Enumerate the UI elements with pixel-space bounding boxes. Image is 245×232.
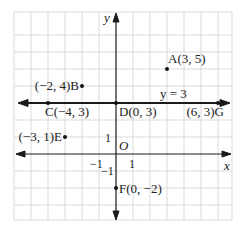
label-point-e: (−3, 1)E bbox=[19, 129, 62, 144]
label-point-f: F(0, −2) bbox=[119, 181, 162, 196]
x-axis-left-arrow-icon bbox=[16, 151, 25, 157]
tick-y-1: 1 bbox=[105, 131, 111, 145]
label-point-d: D(0, 3) bbox=[119, 104, 157, 119]
line-equation-label: y = 3 bbox=[160, 86, 187, 101]
tick-y-neg-1: −1 bbox=[101, 164, 114, 178]
y-axis-label: y bbox=[102, 10, 110, 25]
point-b bbox=[80, 84, 84, 88]
origin-label: O bbox=[119, 138, 129, 153]
y-axis-down-arrow-icon bbox=[113, 211, 119, 220]
label-point-g: (6, 3)G bbox=[186, 104, 224, 119]
x-axis-label: x bbox=[223, 158, 230, 173]
label-point-b: (−2, 4)B bbox=[35, 78, 79, 93]
tick-x-1: 1 bbox=[129, 157, 135, 171]
y-axis-up-arrow-icon bbox=[113, 13, 119, 22]
label-point-a: A(3, 5) bbox=[168, 51, 206, 66]
label-point-c: C(−4, 3) bbox=[45, 104, 89, 119]
x-axis-right-arrow-icon bbox=[222, 151, 231, 157]
point-d bbox=[114, 101, 118, 105]
point-f bbox=[114, 186, 118, 190]
point-a bbox=[165, 67, 169, 71]
coordinate-plane: A(3, 5) (−2, 4)B C(−4, 3) D(0, 3) (6, 3)… bbox=[0, 0, 245, 232]
line-left-arrow-icon bbox=[18, 100, 28, 107]
point-e bbox=[63, 135, 67, 139]
